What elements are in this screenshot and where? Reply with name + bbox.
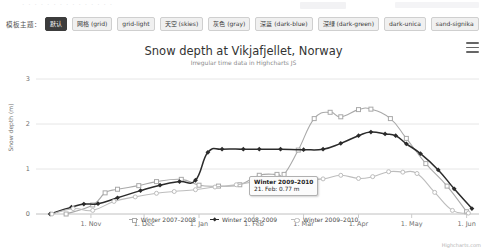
tooltip-body: 21. Feb: 0.77 m [254,186,313,192]
theme-button-grid-light[interactable]: grid-light [117,17,154,31]
data-point-marker [234,183,238,187]
data-point-marker [357,176,361,180]
top-strip-faint-box-1 [300,2,346,9]
legend-symbol-icon [210,216,219,223]
data-point-marker [193,188,197,192]
data-point-marker [415,172,419,176]
data-point-marker [278,147,283,152]
theme-button-group: 默认网格 (grid)grid-light天空 (skies)灰色 (gray)… [45,17,484,31]
data-point-marker [371,175,375,179]
data-point-marker [404,136,408,140]
theme-button-skies[interactable]: 天空 (skies) [160,17,204,31]
highcharts-container: Snow depth at Vikjafjellet, Norway Irreg… [0,36,487,251]
legend-symbol-icon [129,216,138,223]
data-point-marker [450,208,454,212]
data-point-marker [133,195,137,199]
data-point-marker [339,115,343,119]
data-point-marker [433,190,437,194]
data-point-marker [137,184,141,188]
data-point-marker [387,170,391,174]
data-point-marker [197,183,201,187]
theme-button-dark-green[interactable]: 深绿 (dark-green) [318,17,380,31]
theme-button-sand-signika[interactable]: sand-signika [431,17,479,31]
data-point-marker [71,207,75,211]
theme-button-grid[interactable]: 网格 (grid) [72,17,112,31]
data-point-marker [312,117,316,121]
page-top-strip: · · · · · · · · · · · · · · · [0,0,487,12]
data-point-marker [213,185,217,189]
chart-credits: Highcharts.com [442,242,481,248]
data-point-marker [401,170,405,174]
y-tick-label: 3 [16,75,30,83]
data-point-marker [424,162,428,166]
data-point-marker [356,133,361,138]
data-point-marker [466,211,470,215]
legend-item-label: Winter 2009–2010 [303,216,358,223]
data-point-marker [321,147,326,152]
chart-legend: Winter 2007–2008Winter 2008–2009Winter 2… [0,216,487,223]
data-point-marker [369,130,374,135]
data-point-marker [321,177,325,181]
legend-item-winter-2007-2008[interactable]: Winter 2007–2008 [129,216,196,223]
data-point-marker [91,208,95,212]
theme-toolbar-label: 模板主题： [6,19,41,29]
legend-item-winter-2009-2010[interactable]: Winter 2009–2010 [291,216,358,223]
data-point-marker [138,188,143,193]
data-point-marker [116,187,120,191]
data-point-marker [445,184,449,188]
data-point-marker [154,191,158,195]
data-point-marker [339,173,343,177]
theme-toolbar: 模板主题： 默认网格 (grid)grid-light天空 (skies)灰色 … [0,13,487,35]
data-point-marker [369,107,373,111]
theme-button-default[interactable]: 默认 [45,17,67,31]
tooltip-title: Winter 2009–2010 [254,179,313,185]
legend-item-winter-2008-2009[interactable]: Winter 2008–2009 [210,216,277,223]
data-point-marker [220,147,225,152]
theme-button-dark-unica[interactable]: dark-unica [384,17,426,31]
legend-symbol-icon [291,216,300,223]
data-point-marker [103,191,107,195]
data-point-marker [112,199,116,203]
data-point-marker [388,117,392,121]
top-strip-faint-text: · · · · · · · · · · · · · · · [22,1,113,8]
y-tick-label: 1 [16,165,30,173]
series-winter-2007-2008[interactable] [64,107,468,216]
data-point-marker [328,110,332,114]
data-point-marker [241,147,246,152]
data-point-marker [257,147,262,152]
theme-button-dark-blue[interactable]: 深蓝 (dark-blue) [255,17,312,31]
y-axis-title: Snow depth (m) [7,88,14,168]
data-point-marker [357,108,361,112]
y-tick-label: 2 [16,120,30,128]
legend-item-label: Winter 2008–2009 [222,216,277,223]
theme-button-gray[interactable]: 灰色 (gray) [208,17,250,31]
chart-tooltip: Winter 2009–2010 21. Feb: 0.77 m [249,176,318,196]
data-point-marker [383,132,388,137]
legend-item-label: Winter 2007–2008 [141,216,196,223]
data-point-marker [301,147,306,152]
page-root: · · · · · · · · · · · · · · · 模板主题： 默认网格… [0,0,487,251]
data-point-marker [338,141,343,146]
data-point-marker [154,180,158,184]
top-strip-faint-box-2 [395,2,479,8]
data-point-marker [81,202,86,207]
data-point-marker [172,190,176,194]
